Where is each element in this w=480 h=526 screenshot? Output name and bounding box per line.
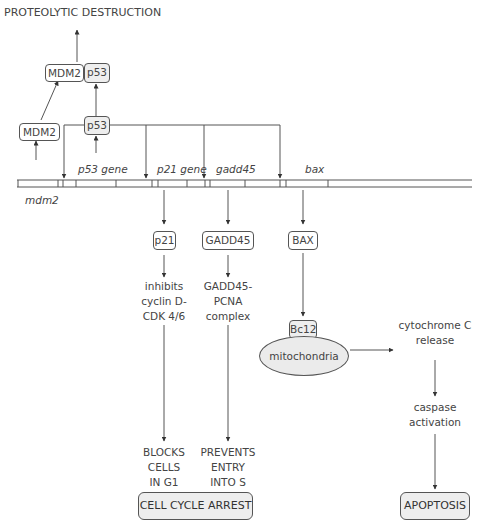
p21-protein: p21 <box>153 231 176 250</box>
mdm2-p53-complex-p53: p53 <box>84 63 110 83</box>
p21-outcome: BLOCKS CELLS IN G1 <box>139 445 189 490</box>
gadd45-effect: GADD45- PCNA complex <box>202 279 254 324</box>
gadd45-protein: GADD45 <box>202 231 254 250</box>
mitochondria: mitochondria <box>259 336 349 376</box>
gadd45-outcome: PREVENTS ENTRY INTO S <box>200 445 256 490</box>
p53-protein: p53 <box>84 116 110 135</box>
apoptosis: APOPTOSIS <box>400 492 470 520</box>
mdm2-p53-complex-mdm2: MDM2 <box>45 64 84 82</box>
bax-protein: BAX <box>288 231 318 250</box>
gene-label-p53: p53 gene <box>78 162 128 177</box>
gene-label-gadd45: gadd45 <box>216 162 256 177</box>
proteolytic-destruction-label: PROTEOLYTIC DESTRUCTION <box>4 5 161 20</box>
caspase-activation: caspase activation <box>405 400 465 430</box>
gene-label-mdm2: mdm2 <box>25 193 59 208</box>
cell-cycle-arrest: CELL CYCLE ARREST <box>138 492 253 520</box>
gene-label-p21: p21 gene <box>157 162 207 177</box>
cytochrome-c-release: cytochrome C release <box>395 318 475 348</box>
gene-label-bax: bax <box>305 162 324 177</box>
mdm2-protein: MDM2 <box>19 123 60 141</box>
p21-effect: inhibits cyclin D- CDK 4/6 <box>139 279 189 324</box>
